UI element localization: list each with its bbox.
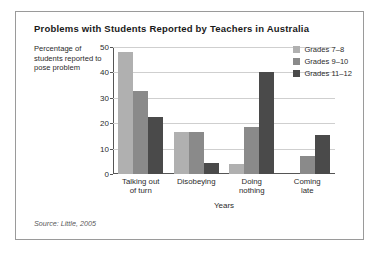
- bar: [133, 91, 148, 174]
- chart-figure: Problems with Students Reported by Teach…: [15, 11, 364, 240]
- y-axis-label: Percentage of students reported to pose …: [34, 44, 106, 73]
- bar: [300, 156, 315, 174]
- source-note: Source: Little, 2005: [34, 219, 96, 228]
- legend: Grades 7–8Grades 9–10Grades 11–12: [293, 45, 352, 78]
- bar: [118, 52, 133, 174]
- y-axis-tick-label: 20: [100, 119, 109, 128]
- bar: [244, 127, 259, 174]
- y-axis-tick-mark: [110, 174, 113, 175]
- bar: [204, 163, 219, 174]
- x-axis-labels: Talking out of turnDisobeyingDoing nothi…: [113, 177, 335, 196]
- legend-item: Grades 7–8: [293, 45, 352, 54]
- bar-group: [224, 47, 280, 174]
- bar: [174, 132, 189, 174]
- chart-title: Problems with Students Reported by Teach…: [34, 23, 309, 34]
- bar-group: [169, 47, 225, 174]
- bar-group: [113, 47, 169, 174]
- x-axis-label: Doing nothing: [224, 177, 280, 196]
- legend-swatch: [293, 58, 300, 65]
- legend-swatch: [293, 46, 300, 53]
- legend-item: Grades 9–10: [293, 57, 352, 66]
- legend-label: Grades 7–8: [304, 45, 344, 54]
- bar: [315, 135, 330, 174]
- legend-label: Grades 11–12: [304, 69, 352, 78]
- bar: [148, 117, 163, 174]
- legend-label: Grades 9–10: [304, 57, 348, 66]
- y-axis-tick-label: 10: [100, 144, 109, 153]
- x-axis-label: Disobeying: [169, 177, 225, 196]
- y-axis-tick-label: 0: [105, 170, 109, 179]
- x-axis-label: Coming late: [280, 177, 336, 196]
- bar: [189, 132, 204, 174]
- x-axis-title: Years: [113, 201, 335, 210]
- legend-swatch: [293, 70, 300, 77]
- x-axis-label: Talking out of turn: [113, 177, 169, 196]
- bar: [259, 72, 274, 174]
- y-axis-tick-label: 50: [100, 43, 109, 52]
- bar: [229, 164, 244, 174]
- y-axis-tick-label: 30: [100, 93, 109, 102]
- y-axis-tick-label: 40: [100, 68, 109, 77]
- legend-item: Grades 11–12: [293, 69, 352, 78]
